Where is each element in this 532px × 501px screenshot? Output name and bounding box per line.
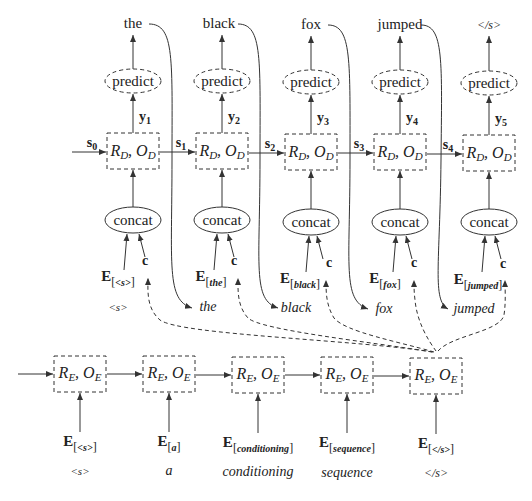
- predict-node: predict: [379, 75, 421, 90]
- decoder-input-word: jumped: [453, 302, 494, 316]
- predict-node: predict: [468, 76, 510, 91]
- encoder-input-word: sequence: [321, 466, 372, 480]
- concat-node: concat: [380, 215, 419, 230]
- predict-node: predict: [290, 75, 332, 90]
- state-label: s0: [87, 136, 97, 152]
- encoder-cell-label: RE, OE: [237, 366, 280, 384]
- decoder-input-word: <s>: [108, 302, 127, 313]
- concat-node: concat: [469, 215, 508, 230]
- y-label: y4: [406, 111, 418, 127]
- decoder-embedding: E[jumped]: [454, 272, 503, 291]
- decoder-cell-label: RD, OD: [199, 143, 244, 161]
- decoder-output-word: jumped: [378, 17, 423, 32]
- encoder-embedding: E[a]: [157, 434, 180, 453]
- encoder-input-word: a: [166, 464, 173, 478]
- decoder-output-word: </s>: [477, 19, 501, 31]
- decoder-output-word: fox: [301, 17, 321, 32]
- decoder-input-word: fox: [375, 302, 392, 316]
- encoder-embedding: E[<s>]: [63, 434, 96, 453]
- decoder-input-word: the: [199, 300, 216, 314]
- context-label: c: [411, 256, 417, 270]
- y-label: y1: [139, 110, 151, 126]
- decoder-output-word: the: [124, 16, 142, 31]
- state-label: s2: [265, 137, 275, 153]
- decoder-cell-label: RD, OD: [377, 144, 422, 162]
- decoder-input-word: black: [281, 301, 311, 315]
- diagram-lines: [0, 0, 532, 501]
- decoder-embedding: E[<s>]: [101, 269, 134, 288]
- decoder-embedding: E[fox]: [369, 271, 400, 290]
- context-label: c: [231, 254, 237, 268]
- concat-node: concat: [291, 215, 330, 230]
- decoder-embedding: E[the]: [196, 269, 227, 288]
- encoder-embedding: E[conditioning]: [223, 435, 293, 454]
- state-label: s1: [176, 136, 186, 152]
- concat-node: concat: [113, 213, 152, 228]
- encoder-cell-label: RE, OE: [148, 365, 191, 383]
- context-label: c: [500, 257, 506, 271]
- y-label: y2: [228, 110, 240, 126]
- encoder-cell-label: RE, OE: [59, 365, 102, 383]
- context-label: c: [142, 254, 148, 268]
- state-label: s4: [443, 138, 453, 154]
- encoder-input-word: </s>: [424, 467, 448, 479]
- decoder-cell-label: RD, OD: [288, 144, 333, 162]
- decoder-cell-label: RD, OD: [110, 143, 155, 161]
- encoder-cell-label: RE, OE: [326, 366, 369, 384]
- predict-node: predict: [201, 74, 243, 89]
- encoder-decoder-diagram: the black fox jumped </s> predict predic…: [0, 0, 532, 501]
- predict-node: predict: [112, 74, 154, 89]
- decoder-output-word: black: [203, 16, 235, 31]
- y-label: y3: [317, 111, 329, 127]
- encoder-input-word: <s>: [70, 466, 89, 477]
- context-label: c: [326, 256, 332, 270]
- encoder-cell-label: RE, OE: [415, 367, 458, 385]
- encoder-embedding: E[</s>]: [418, 436, 454, 455]
- encoder-input-word: conditioning: [223, 465, 294, 479]
- decoder-cell-label: RD, OD: [466, 145, 511, 163]
- encoder-embedding: E[sequence]: [319, 435, 375, 454]
- decoder-embedding: E[black]: [280, 271, 320, 290]
- concat-node: concat: [202, 213, 241, 228]
- y-label: y5: [495, 112, 507, 128]
- state-label: s3: [354, 137, 364, 153]
